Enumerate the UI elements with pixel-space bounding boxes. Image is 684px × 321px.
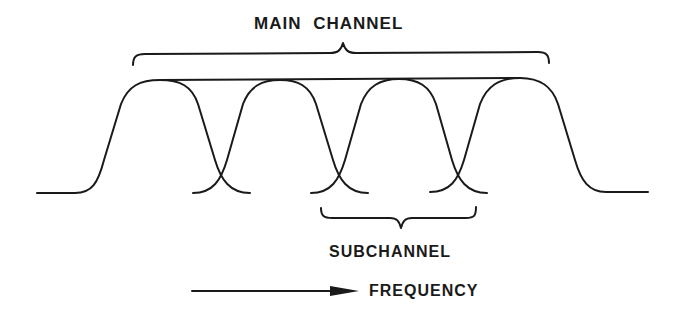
subchannel-2-curve (193, 80, 368, 193)
frequency-axis-label: FREQUENCY (369, 282, 478, 300)
subchannel-3-curve (311, 79, 487, 193)
passband-top-line (160, 78, 520, 80)
main-channel-brace (133, 43, 549, 65)
subchannel-1-curve (37, 80, 250, 193)
channel-diagram (0, 0, 684, 321)
diagram-canvas: MAIN CHANNEL SUBCHANNEL FREQUENCY (0, 0, 684, 321)
subchannel-label: SUBCHANNEL (329, 243, 451, 261)
subchannel-brace (321, 207, 476, 228)
frequency-arrow-icon (192, 286, 359, 296)
main-channel-label: MAIN CHANNEL (254, 14, 403, 34)
subchannel-4-curve (430, 78, 648, 192)
